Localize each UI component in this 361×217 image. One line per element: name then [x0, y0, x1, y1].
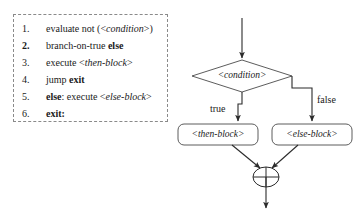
line-part-italic: condition — [106, 23, 144, 34]
line-part: : execute < — [62, 91, 106, 102]
false-edge-label: false — [317, 94, 336, 105]
line-text: evaluate not (<condition>) — [46, 20, 153, 37]
line-part: branch-on-true — [46, 40, 108, 51]
line-part: > — [146, 91, 152, 102]
line-text: else: execute <else-block> — [46, 88, 152, 105]
line-number: 6. — [22, 105, 38, 122]
line-part-bold: else — [46, 91, 62, 102]
line-part: >) — [144, 23, 153, 34]
figure-canvas: 1. evaluate not (<condition>) 2. branch-… — [0, 0, 361, 217]
line-part-italic: else-block — [106, 91, 147, 102]
line-text: branch-on-true else — [46, 37, 123, 54]
line-part: execute < — [46, 57, 85, 68]
line-part-bold: exit — [69, 74, 85, 85]
line-part: > — [127, 57, 133, 68]
control-flow-graph: <condition> <then-block> <else-block> tr… — [170, 0, 361, 217]
pseudocode-line: 2. branch-on-true else — [14, 37, 167, 54]
then-block-label: <then-block> — [178, 129, 258, 139]
pseudocode-line: 3. execute <then-block> — [14, 54, 167, 71]
else-to-merge-edge — [272, 145, 298, 168]
pseudocode-panel: 1. evaluate not (<condition>) 2. branch-… — [13, 14, 168, 122]
line-number: 2. — [22, 37, 38, 54]
line-text: execute <then-block> — [46, 54, 133, 71]
then-to-merge-edge — [232, 145, 260, 168]
decision-label: <condition> — [212, 70, 272, 80]
pseudocode-line: 1. evaluate not (<condition>) — [14, 20, 167, 37]
line-part-italic: then-block — [85, 57, 127, 68]
pseudocode-line: 5. else: execute <else-block> — [14, 88, 167, 105]
pseudocode-list: 1. evaluate not (<condition>) 2. branch-… — [14, 20, 167, 122]
line-part-bold: else — [108, 40, 124, 51]
line-text: jump exit — [46, 71, 85, 88]
line-number: 4. — [22, 71, 38, 88]
true-edge-label: true — [210, 103, 226, 114]
line-text: exit: — [46, 105, 65, 122]
false-edge — [292, 76, 312, 121]
line-number: 5. — [22, 88, 38, 105]
line-part: evaluate not (< — [46, 23, 106, 34]
pseudocode-line: 6. exit: — [14, 105, 167, 122]
line-part: jump — [46, 74, 69, 85]
line-number: 3. — [22, 54, 38, 71]
else-block-label: <else-block> — [272, 129, 352, 139]
pseudocode-line: 4. jump exit — [14, 71, 167, 88]
true-edge — [238, 92, 242, 121]
line-number: 1. — [22, 20, 38, 37]
